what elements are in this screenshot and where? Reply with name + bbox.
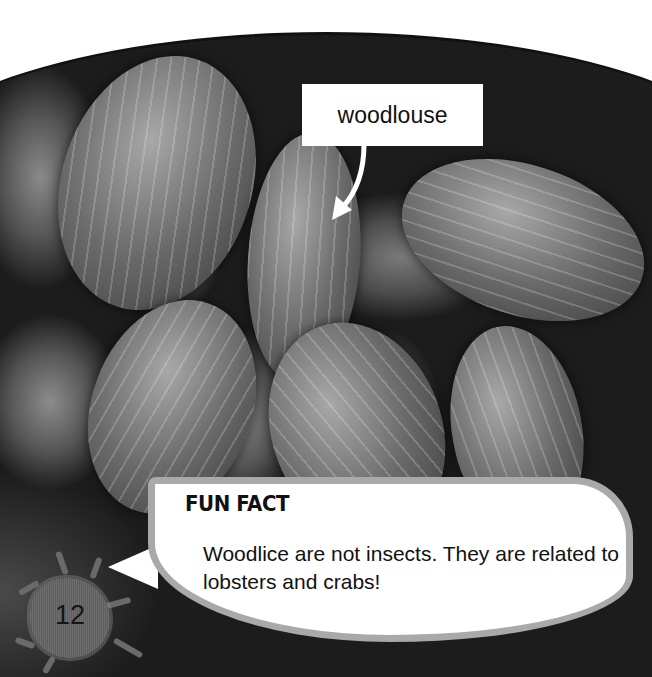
woodlouse-image xyxy=(381,130,652,350)
woodlouse-label: woodlouse xyxy=(302,84,483,146)
fun-fact-title: FUN FACT xyxy=(185,491,289,516)
woodlouse-label-text: woodlouse xyxy=(338,102,448,129)
fun-fact-text: Woodlice are not insects. They are relat… xyxy=(203,540,623,596)
page-number: 12 xyxy=(30,600,110,631)
pointer-arrow-icon xyxy=(330,144,400,224)
